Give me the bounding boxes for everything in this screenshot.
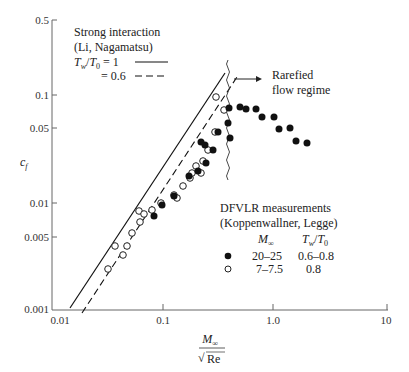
y-tick-label: 0.005: [24, 231, 49, 243]
row1-temp: 0.6–0.8: [298, 249, 334, 263]
svg-text:√: √: [198, 351, 205, 365]
theory-lines: [70, 73, 237, 313]
svg-text:M∞: M∞: [201, 332, 218, 348]
row2-temp: 0.8: [306, 262, 321, 276]
x-tick-label: 0.01: [50, 314, 69, 326]
col-header-temp: Tw/T0: [302, 232, 328, 248]
theory-legend: Strong interaction (Li, Nagamatsu) Tw/T0…: [74, 25, 168, 83]
col-header-mach: M∞: [257, 232, 274, 248]
y-tick-label: 0.001: [24, 303, 49, 315]
y-tick-label: 0.01: [30, 197, 49, 209]
svg-text:Re: Re: [207, 352, 220, 366]
rarefied-arrow: [234, 76, 262, 82]
open-circle-series: [105, 94, 228, 273]
x-tick-label: 1.0: [266, 314, 280, 326]
y-tick-label: 0.05: [30, 122, 50, 134]
arrow-head-icon: [256, 76, 262, 82]
filled-circle-icon: [225, 253, 232, 260]
x-axis-label: M∞ √ Re: [198, 332, 225, 366]
skin-friction-chart: 0.5 0.1 0.05 0.01 0.005 0.001 0.01 0.1 1…: [0, 0, 409, 372]
rarefied-label-line2: flow regime: [272, 83, 330, 97]
x-tick-label: 0.1: [156, 314, 170, 326]
theory-legend-row2: = 0.6: [101, 69, 126, 83]
y-tick-label: 0.5: [35, 14, 49, 26]
data-legend: DFVLR measurements (Koppenwallner, Legge…: [220, 201, 337, 276]
dashed-line-tw-06: [82, 77, 237, 313]
x-tick-label: 10: [381, 314, 393, 326]
theory-legend-title: Strong interaction: [74, 25, 160, 39]
theory-legend-subtitle: (Li, Nagamatsu): [74, 40, 153, 54]
row1-mach: 20–25: [252, 249, 282, 263]
data-legend-subtitle: (Koppenwallner, Legge): [220, 216, 337, 230]
y-axis-label: cf: [20, 155, 29, 171]
open-circle-icon: [225, 266, 231, 272]
row2-mach: 7–7.5: [256, 262, 283, 276]
solid-line-tw-1: [70, 73, 225, 308]
data-legend-title: DFVLR measurements: [220, 201, 331, 215]
rarefied-label-line1: Rarefied: [272, 68, 313, 82]
y-tick-label: 0.1: [35, 89, 49, 101]
